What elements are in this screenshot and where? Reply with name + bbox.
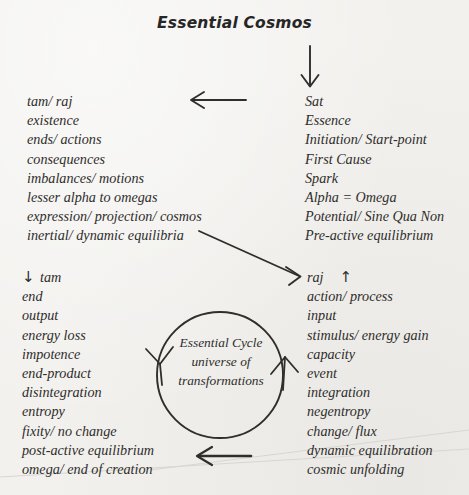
list-item: action/ process (307, 287, 433, 306)
list-item: lesser alpha to omegas (27, 188, 202, 207)
list-item: ends/ actions (27, 130, 202, 149)
list-item: change/ flux (307, 422, 433, 441)
list-item: expression/ projection/ cosmos (27, 207, 202, 226)
list-item: fixity/ no change (22, 422, 154, 441)
list-item: disintegration (22, 383, 154, 402)
list-item: Initiation/ Start-point (305, 130, 444, 149)
list-item: Sat (305, 92, 444, 111)
list-item: cosmic unfolding (307, 460, 433, 479)
list-item: Essence (305, 111, 444, 130)
list-item-label: tam (40, 269, 61, 285)
tam-raj-manifestation-column: tam/ raj existence ends/ actions consequ… (27, 92, 202, 246)
arrow-down-icon: ↓ (22, 268, 40, 287)
cycle-label-line-3: transformations (157, 371, 285, 390)
cycle-label-line-1: Essential Cycle (157, 333, 285, 352)
cycle-label-line-2: universe of (157, 352, 285, 371)
arrow-up-icon: ↑ (340, 268, 353, 287)
list-item: event (307, 364, 433, 383)
list-item: imbalances/ motions (27, 169, 202, 188)
arrow-down-title-to-sat (302, 46, 319, 87)
list-item: stimulus/ energy gain (307, 326, 433, 345)
list-item: output (22, 306, 154, 325)
list-item: omega/ end of creation (22, 460, 154, 479)
list-item: entropy (22, 402, 154, 421)
list-item: energy loss (22, 326, 154, 345)
page-title: Essential Cosmos (0, 14, 469, 32)
list-item: end (22, 287, 154, 306)
list-item: ↓tam (22, 268, 154, 287)
diagram-canvas: Essential Cosmos tam/ raj existence ends… (0, 0, 469, 495)
list-item: Pre-active equilibrium (305, 226, 444, 245)
list-item: inertial/ dynamic equilibria (27, 226, 202, 245)
arrow-diagonal-equilibria-to-raj (199, 231, 301, 285)
list-item: Spark (305, 169, 444, 188)
essential-cycle-label: Essential Cycle universe of transformati… (157, 333, 285, 390)
list-item: consequences (27, 150, 202, 169)
raj-action-column: raj↑ action/ process input stimulus/ ene… (307, 268, 433, 479)
list-item: First Cause (305, 150, 444, 169)
list-item: raj↑ (307, 268, 433, 287)
list-item: impotence (22, 345, 154, 364)
list-item: tam/ raj (27, 92, 202, 111)
list-item: Potential/ Sine Qua Non (305, 207, 444, 226)
list-item: dynamic equilibration (307, 441, 433, 460)
list-item: post-active equilibrium (22, 441, 154, 460)
list-item: Alpha = Omega (305, 188, 444, 207)
sat-essence-column: Sat Essence Initiation/ Start-point Firs… (305, 92, 444, 246)
list-item: existence (27, 111, 202, 130)
list-item: end-product (22, 364, 154, 383)
list-item-label: raj (307, 269, 324, 285)
tam-entropy-column: ↓tam end output energy loss impotence en… (22, 268, 154, 479)
list-item: capacity (307, 345, 433, 364)
list-item: negentropy (307, 402, 433, 421)
list-item: integration (307, 383, 433, 402)
list-item: input (307, 306, 433, 325)
